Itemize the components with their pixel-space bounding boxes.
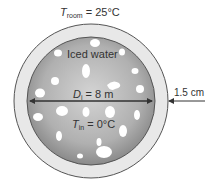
contents-label: Iced water <box>67 48 118 60</box>
room-temperature-label: Troom = 25°C <box>60 6 120 19</box>
diameter-label: Di = 8 m <box>73 88 113 101</box>
inside-temperature-label: Tin = 0°C <box>72 118 115 131</box>
thickness-label: 1.5 cm <box>174 87 204 98</box>
spherical-tank-diagram: Troom = 25°C Iced water Di = 8 m Tin = 0… <box>0 0 214 191</box>
